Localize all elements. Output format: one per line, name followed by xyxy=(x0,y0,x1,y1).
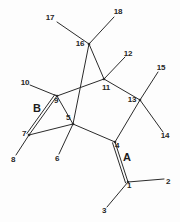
atom-5-label: 5 xyxy=(66,114,70,122)
atom-3-label: 3 xyxy=(102,207,106,215)
bond-1-3 xyxy=(107,182,128,207)
vertex-7 xyxy=(28,134,31,137)
ring-a-label: A xyxy=(123,152,131,163)
atom-8-label: 8 xyxy=(11,156,15,164)
atom-16-label: 16 xyxy=(76,40,85,48)
bond-5-4 xyxy=(73,124,115,142)
bond-9-10 xyxy=(30,85,57,96)
atom-7-label: 7 xyxy=(22,130,26,138)
bond-11-9 xyxy=(57,79,104,96)
atom-2-label: 2 xyxy=(166,178,170,186)
molecule-diagram-canvas: 123456789101112131415161718 AB xyxy=(0,0,180,222)
ring-b-label: B xyxy=(33,103,41,114)
atom-12-label: 12 xyxy=(124,50,133,58)
bond-7-8 xyxy=(16,135,29,155)
bond-11-12 xyxy=(104,57,125,79)
bond-16-11 xyxy=(89,44,104,79)
vertex-5 xyxy=(72,123,75,126)
bond-13-15 xyxy=(140,72,158,100)
atom-6-label: 6 xyxy=(55,155,59,163)
bond-13-14 xyxy=(140,100,163,132)
atom-9-label: 9 xyxy=(54,97,58,105)
vertex-16 xyxy=(88,43,91,46)
bond-16-18 xyxy=(89,17,114,44)
atom-1-label: 1 xyxy=(127,182,131,190)
bond-9-7-stroke-2 xyxy=(27,94,55,133)
atom-14-label: 14 xyxy=(161,132,170,140)
atom-4-label: 4 xyxy=(115,142,119,150)
atom-10-label: 10 xyxy=(21,79,30,87)
bond-1-2 xyxy=(128,179,164,182)
bond-16-5 xyxy=(73,44,89,124)
atom-13-label: 13 xyxy=(128,96,137,104)
bond-5-6 xyxy=(59,124,73,154)
atom-11-label: 11 xyxy=(102,84,110,92)
vertex-11 xyxy=(103,78,106,81)
bond-13-4 xyxy=(115,100,140,142)
atom-18-label: 18 xyxy=(114,8,123,16)
molecule-skeleton xyxy=(0,0,180,222)
atom-17-label: 17 xyxy=(46,14,55,22)
vertex-13 xyxy=(139,99,142,102)
atom-15-label: 15 xyxy=(157,64,166,72)
